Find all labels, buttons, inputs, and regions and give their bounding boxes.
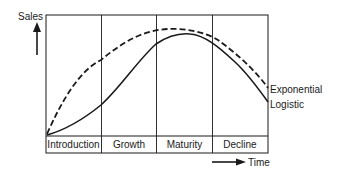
stage-maturity: Maturity [167,139,203,150]
plot-frame [46,15,268,153]
exponential-curve [47,29,268,134]
legend-exponential: Exponential [270,84,322,95]
stage-growth: Growth [113,139,145,150]
product-life-cycle-diagram: Sales Introduction Growth Maturity Decli… [0,0,344,174]
right-arrow-icon [212,159,246,166]
y-axis-label: Sales [18,11,43,22]
logistic-curve [47,34,268,135]
legend-logistic: Logistic [270,99,304,110]
stage-introduction: Introduction [47,139,99,150]
up-arrow-icon [33,22,41,55]
x-axis-label: Time [248,157,270,168]
stage-decline: Decline [223,139,257,150]
